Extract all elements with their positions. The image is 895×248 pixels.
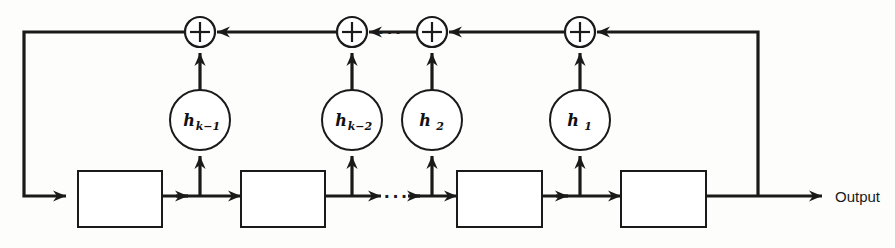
gain-node-h-1[interactable]: h 1 <box>550 90 610 150</box>
adder-2[interactable] <box>337 17 367 47</box>
gain-label-base: h <box>567 111 579 130</box>
gain-node-h-k-1[interactable]: h k−1 <box>170 90 230 150</box>
gain-label-base: h <box>183 111 195 130</box>
gain-label-subscript: 2 <box>435 120 444 133</box>
output-label: Output <box>835 188 881 205</box>
delay-block-2[interactable] <box>241 171 325 227</box>
delay-block-1[interactable] <box>78 171 162 227</box>
gain-label-subscript: k−1 <box>196 120 221 133</box>
gain-label-base: h <box>419 111 431 130</box>
gain-node-h-2[interactable]: h 2 <box>402 90 462 150</box>
adder-1[interactable] <box>185 17 215 47</box>
ellipsis-bottom-bus: ··· <box>384 185 410 207</box>
ellipsis-top-bus: ··· <box>378 21 404 43</box>
adder-3[interactable] <box>417 17 447 47</box>
delay-block-3[interactable] <box>457 171 542 227</box>
gain-label-base: h <box>335 111 347 130</box>
filter-block-diagram: h k−1 h k−2 h 2 h 1 <box>0 0 895 248</box>
gain-label-subscript: k−2 <box>348 120 373 133</box>
delay-block-4[interactable] <box>621 171 706 227</box>
adder-4[interactable] <box>565 17 595 47</box>
diagram-canvas: h k−1 h k−2 h 2 h 1 <box>0 0 895 248</box>
gain-label-subscript: 1 <box>584 120 592 133</box>
tap-verticals-upper <box>200 53 580 90</box>
gain-node-h-k-2[interactable]: h k−2 <box>322 90 382 150</box>
